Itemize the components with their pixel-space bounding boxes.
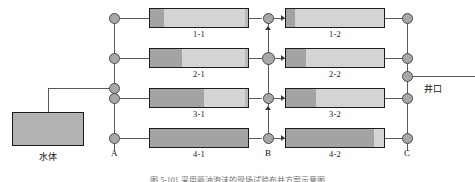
bar-4-1-fill [150,129,248,147]
figure-caption: 图 5-101 采用驱油泡沫的现场试验布井方案示意图 [0,174,475,182]
bar-4-1-label: 4-1 [149,149,249,159]
bar-3-2[interactable] [285,88,385,108]
tank-riser-line [48,88,49,112]
bar-1-2-label: 1-2 [285,29,385,39]
node-c-3[interactable] [402,93,413,104]
bar-4-2[interactable] [285,128,385,148]
column-c-trunk [407,19,408,151]
node-c-2[interactable] [402,53,413,64]
flow-arrow-b-upper [265,26,271,30]
bar-2-1-fill [150,49,182,67]
node-c-1[interactable] [402,13,413,24]
bar-2-1-label: 2-1 [149,69,249,79]
bar-1-1-label: 1-1 [149,29,249,39]
connector-b-left-row1 [249,18,262,19]
connector-b-left-row2 [249,58,262,59]
node-b-1[interactable] [263,13,274,24]
diagram-canvas: 水体 A 1-1 2-1 3-1 4-1 B [0,0,475,182]
connector-a-row4 [120,138,149,139]
bar-3-1-fill [150,89,204,107]
node-b-4[interactable] [263,133,274,144]
bar-4-1[interactable] [149,128,249,148]
bar-4-2-label: 4-2 [285,149,385,159]
bar-1-2-fill [286,9,295,27]
bar-4-2-fill [286,129,374,147]
bar-3-1[interactable] [149,88,249,108]
wellhead-label: 井口 [424,82,464,95]
bar-1-1-fill [150,9,164,27]
node-c-outlet[interactable] [402,71,413,82]
connector-b-left-row3 [249,98,262,99]
bar-2-1[interactable] [149,48,249,68]
connector-a-row2 [120,58,149,59]
connector-b-left-row4 [249,138,262,139]
node-b-2[interactable] [262,52,275,65]
column-b-trunk [268,19,269,138]
flow-arrow-b-mid [265,106,271,110]
node-c-4[interactable] [402,133,413,144]
column-b-label: B [265,148,271,158]
connector-a-row1 [120,18,149,19]
node-a-2[interactable] [109,53,120,64]
bar-2-1-tip [245,49,248,67]
column-c-label: C [404,148,410,158]
bar-3-1-tip [245,89,248,107]
bar-1-1-tip [245,9,248,27]
water-body-label: 水体 [12,150,84,163]
wellhead-line [413,76,475,77]
bar-2-2[interactable] [285,48,385,68]
water-body-tank [12,112,84,146]
node-b-3[interactable] [263,93,274,104]
bar-1-2[interactable] [285,8,385,28]
bar-3-2-fill [286,89,316,107]
tank-to-nodeA-line [48,88,114,89]
node-a-3[interactable] [109,93,120,104]
node-a-1[interactable] [109,13,120,24]
node-a-4[interactable] [109,133,120,144]
column-a-label: A [111,148,118,158]
bar-3-1-label: 3-1 [149,109,249,119]
bar-2-2-label: 2-2 [285,69,385,79]
bar-2-2-fill [286,49,306,67]
bar-1-1[interactable] [149,8,249,28]
bar-3-2-label: 3-2 [285,109,385,119]
connector-a-row3 [120,98,149,99]
